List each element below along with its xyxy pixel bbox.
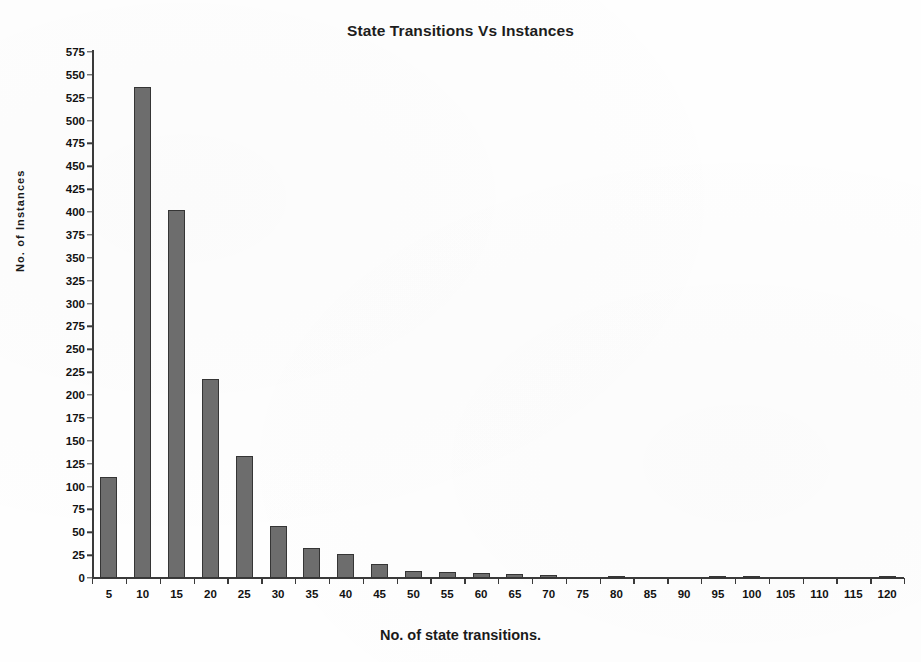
x-tick-mark bbox=[836, 578, 837, 584]
x-tick-label: 90 bbox=[678, 588, 691, 600]
y-tick-label: 400 bbox=[66, 206, 85, 218]
x-tick-mark bbox=[295, 578, 296, 584]
x-tick-label: 110 bbox=[810, 588, 829, 600]
x-tick-mark bbox=[701, 578, 702, 584]
bar bbox=[371, 564, 388, 578]
y-tick-label: 150 bbox=[66, 435, 85, 447]
x-tick-mark bbox=[430, 578, 431, 584]
bar bbox=[168, 210, 185, 578]
bar bbox=[540, 575, 557, 578]
x-tick-label: 80 bbox=[610, 588, 623, 600]
x-tick-mark bbox=[566, 578, 567, 584]
y-tick-label: 550 bbox=[66, 69, 85, 81]
bar bbox=[100, 477, 117, 578]
x-tick-mark bbox=[227, 578, 228, 584]
y-tick-label: 450 bbox=[66, 160, 85, 172]
y-tick-label: 375 bbox=[66, 229, 85, 241]
bar bbox=[439, 572, 456, 578]
x-tick-mark bbox=[735, 578, 736, 584]
x-tick-mark bbox=[769, 578, 770, 584]
x-tick-label: 5 bbox=[106, 588, 112, 600]
x-tick-mark bbox=[92, 578, 93, 584]
bar bbox=[337, 554, 354, 578]
y-tick-label: 175 bbox=[66, 412, 85, 424]
y-tick-label: 200 bbox=[66, 389, 85, 401]
x-tick-mark bbox=[329, 578, 330, 584]
y-tick-label: 300 bbox=[66, 298, 85, 310]
bar bbox=[270, 526, 287, 578]
x-tick-mark bbox=[904, 578, 905, 584]
x-tick-mark bbox=[397, 578, 398, 584]
y-tick-label: 425 bbox=[66, 183, 85, 195]
x-tick-label: 95 bbox=[712, 588, 725, 600]
x-tick-label: 40 bbox=[339, 588, 352, 600]
x-tick-label: 100 bbox=[742, 588, 761, 600]
bar bbox=[473, 573, 490, 578]
x-tick-label: 25 bbox=[238, 588, 251, 600]
y-tick-label: 275 bbox=[66, 320, 85, 332]
bar bbox=[506, 574, 523, 578]
y-tick-label: 350 bbox=[66, 252, 85, 264]
x-tick-label: 85 bbox=[644, 588, 657, 600]
x-tick-label: 120 bbox=[877, 588, 896, 600]
y-tick-label: 475 bbox=[66, 137, 85, 149]
x-tick-mark bbox=[126, 578, 127, 584]
x-tick-mark bbox=[160, 578, 161, 584]
bar bbox=[879, 576, 896, 578]
y-tick-label: 100 bbox=[66, 481, 85, 493]
x-axis-title: No. of state transitions. bbox=[0, 627, 921, 643]
y-tick-label: 75 bbox=[72, 503, 85, 515]
x-tick-label: 20 bbox=[204, 588, 217, 600]
x-tick-label: 45 bbox=[373, 588, 386, 600]
bar bbox=[202, 379, 219, 578]
x-tick-mark bbox=[363, 578, 364, 584]
y-tick-label: 25 bbox=[72, 549, 85, 561]
x-tick-label: 65 bbox=[509, 588, 522, 600]
x-tick-mark bbox=[803, 578, 804, 584]
bar bbox=[743, 576, 760, 578]
y-tick-label: 575 bbox=[66, 46, 85, 58]
bar bbox=[709, 576, 726, 578]
bar bbox=[303, 548, 320, 578]
bar bbox=[405, 571, 422, 578]
x-tick-mark bbox=[600, 578, 601, 584]
x-tick-label: 50 bbox=[407, 588, 420, 600]
x-tick-mark bbox=[870, 578, 871, 584]
x-tick-mark bbox=[464, 578, 465, 584]
x-tick-label: 15 bbox=[170, 588, 183, 600]
x-tick-label: 35 bbox=[306, 588, 319, 600]
y-tick-label: 0 bbox=[79, 572, 85, 584]
x-axis-ticks: 5101520253035404550556065707580859095100… bbox=[92, 578, 904, 618]
x-tick-label: 60 bbox=[475, 588, 488, 600]
y-tick-label: 500 bbox=[66, 115, 85, 127]
x-tick-mark bbox=[667, 578, 668, 584]
y-tick-label: 250 bbox=[66, 343, 85, 355]
y-tick-label: 125 bbox=[66, 458, 85, 470]
x-tick-label: 115 bbox=[844, 588, 863, 600]
y-tick-label: 225 bbox=[66, 366, 85, 378]
chart-title: State Transitions Vs Instances bbox=[0, 22, 921, 40]
y-tick-label: 50 bbox=[72, 526, 85, 538]
bar bbox=[236, 456, 253, 578]
x-tick-label: 70 bbox=[542, 588, 555, 600]
bar bbox=[134, 87, 151, 578]
bar-series bbox=[92, 52, 904, 578]
chart-container: State Transitions Vs Instances No. of In… bbox=[0, 0, 921, 662]
x-tick-mark bbox=[532, 578, 533, 584]
x-tick-mark bbox=[633, 578, 634, 584]
y-axis-title: No. of Instances bbox=[14, 92, 26, 272]
x-tick-label: 30 bbox=[272, 588, 285, 600]
x-tick-mark bbox=[194, 578, 195, 584]
x-tick-label: 10 bbox=[136, 588, 149, 600]
y-tick-label: 325 bbox=[66, 275, 85, 287]
x-tick-mark bbox=[261, 578, 262, 584]
bar bbox=[608, 576, 625, 578]
x-tick-label: 55 bbox=[441, 588, 454, 600]
y-tick-label: 525 bbox=[66, 92, 85, 104]
x-tick-label: 105 bbox=[776, 588, 795, 600]
x-tick-mark bbox=[498, 578, 499, 584]
x-tick-label: 75 bbox=[576, 588, 589, 600]
